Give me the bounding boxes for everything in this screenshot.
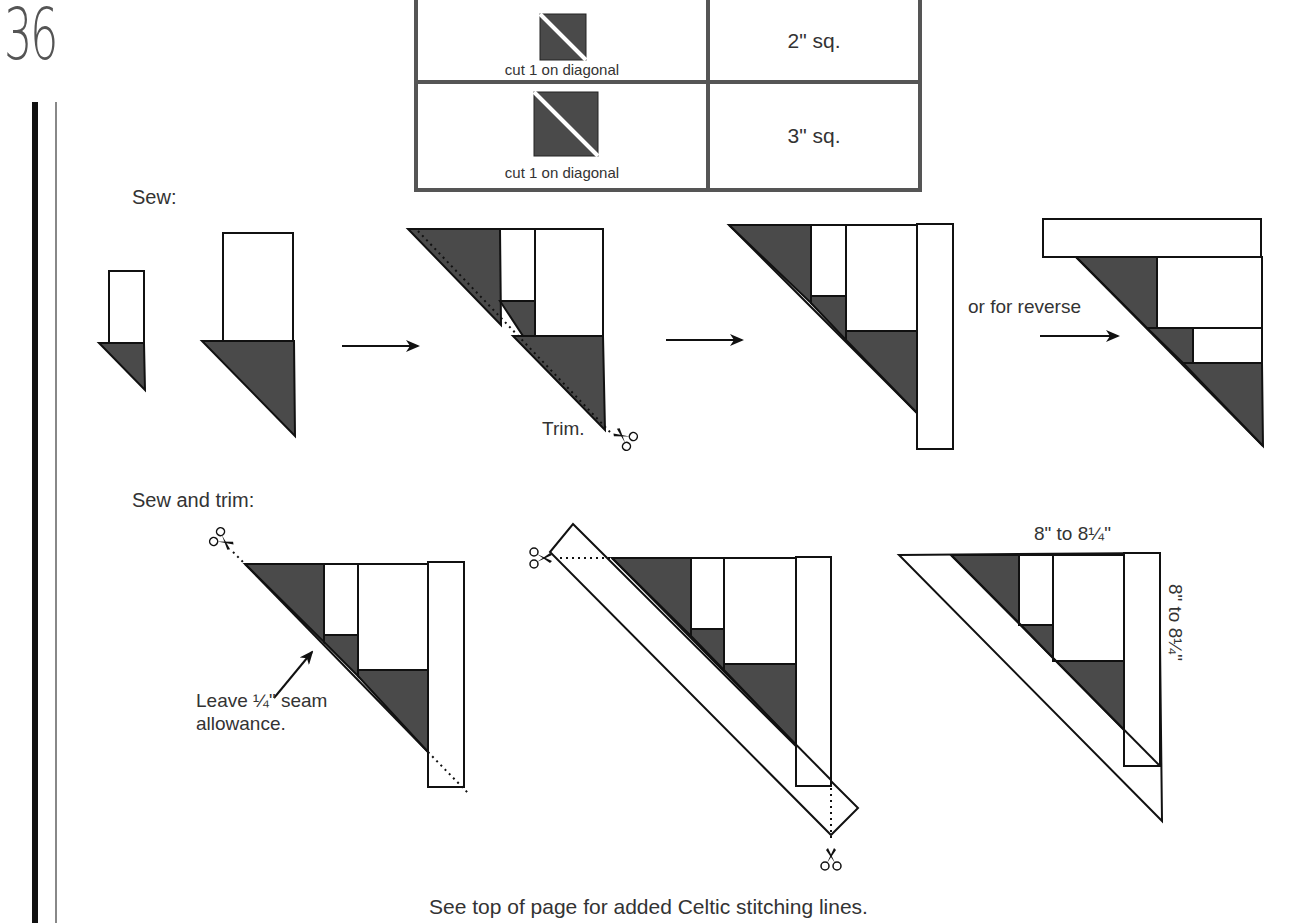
trim-label: Trim. [542,418,585,440]
scissors-icon [821,848,841,870]
scissors-icon [530,548,552,568]
unit-small [99,271,145,390]
seam-note-line2: allowance. [196,713,286,735]
scissors-icon [609,423,638,452]
unit-finished [899,553,1162,821]
dimension-side: 8" to 8¼" [1164,584,1186,661]
footer-note: See top of page for added Celtic stitchi… [429,895,868,919]
sew-heading: Sew: [132,186,176,209]
unit-trim-step [208,526,468,793]
seam-note-line1: Leave ¼" seam [196,690,327,712]
dimension-top: 8" to 8¼" [1034,523,1111,545]
unit-with-side-strip [729,224,953,449]
unit-diagonal-strip [530,524,858,870]
unit-reverse-top-strip [1043,219,1263,446]
scissors-icon [208,526,237,555]
sew-and-trim-heading: Sew and trim: [132,489,254,512]
assembly-diagrams [0,0,1289,923]
unit-large [202,233,295,436]
reverse-label: or for reverse [968,296,1081,318]
unit-combined [408,229,639,452]
